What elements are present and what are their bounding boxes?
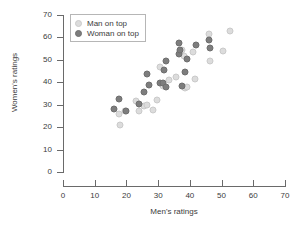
data-point bbox=[144, 101, 151, 108]
y-tick-label-60: 60 bbox=[0, 33, 52, 41]
x-tick-70 bbox=[285, 180, 286, 187]
y-axis-title: Women's ratings bbox=[10, 33, 19, 133]
data-point bbox=[123, 108, 130, 115]
x-tick-label-10: 10 bbox=[80, 192, 110, 200]
legend-label-man-on-top: Man on top bbox=[87, 19, 127, 28]
x-tick-label-60: 60 bbox=[238, 192, 268, 200]
data-point bbox=[220, 47, 227, 54]
data-point bbox=[163, 83, 170, 90]
data-point bbox=[178, 82, 185, 89]
x-tick-10 bbox=[95, 180, 96, 187]
data-point bbox=[183, 55, 190, 62]
chart-legend: Man on top Woman on top bbox=[70, 14, 146, 42]
y-tick-label-30: 30 bbox=[0, 101, 52, 109]
x-tick-label-20: 20 bbox=[111, 192, 141, 200]
scatter-plot-figure: 010203040506070 Women's ratings 01020304… bbox=[0, 0, 304, 241]
data-point bbox=[226, 27, 233, 34]
data-point bbox=[140, 89, 147, 96]
y-tick-0 bbox=[57, 172, 63, 173]
data-point bbox=[177, 46, 184, 53]
legend-item-woman-on-top: Woman on top bbox=[75, 28, 139, 38]
y-tick-label-10: 10 bbox=[0, 146, 52, 154]
x-tick-30 bbox=[158, 180, 159, 187]
x-tick-60 bbox=[253, 180, 254, 187]
y-tick-label-40: 40 bbox=[0, 78, 52, 86]
x-tick-label-0: 0 bbox=[48, 192, 78, 200]
x-tick-40 bbox=[190, 180, 191, 187]
y-tick-label-0: 0 bbox=[0, 168, 52, 176]
legend-marker-man-on-top-icon bbox=[75, 20, 82, 27]
data-point bbox=[161, 66, 168, 73]
data-point bbox=[115, 96, 122, 103]
x-tick-50 bbox=[222, 180, 223, 187]
data-point bbox=[110, 106, 117, 113]
x-tick-0 bbox=[63, 180, 64, 187]
x-axis-line bbox=[63, 186, 285, 187]
data-point bbox=[144, 71, 151, 78]
data-point bbox=[205, 36, 212, 43]
x-tick-20 bbox=[126, 180, 127, 187]
data-point bbox=[191, 75, 198, 82]
x-tick-label-30: 30 bbox=[143, 192, 173, 200]
data-point bbox=[150, 107, 157, 114]
legend-item-man-on-top: Man on top bbox=[75, 18, 139, 28]
legend-marker-woman-on-top-icon bbox=[75, 30, 82, 37]
data-point bbox=[207, 44, 214, 51]
x-tick-label-50: 50 bbox=[207, 192, 237, 200]
data-point bbox=[163, 57, 170, 64]
data-point bbox=[193, 42, 200, 49]
legend-label-woman-on-top: Woman on top bbox=[87, 29, 139, 38]
data-point bbox=[153, 97, 160, 104]
data-point bbox=[136, 100, 143, 107]
data-point bbox=[117, 121, 124, 128]
x-tick-label-40: 40 bbox=[175, 192, 205, 200]
data-point bbox=[182, 69, 189, 76]
data-point bbox=[207, 57, 214, 64]
x-tick-label-70: 70 bbox=[270, 192, 300, 200]
x-axis-title: Men's ratings bbox=[63, 207, 285, 216]
y-tick-label-20: 20 bbox=[0, 123, 52, 131]
y-tick-label-50: 50 bbox=[0, 56, 52, 64]
data-point bbox=[145, 81, 152, 88]
data-point bbox=[172, 73, 179, 80]
y-tick-label-70: 70 bbox=[0, 11, 52, 19]
data-point bbox=[190, 49, 197, 56]
